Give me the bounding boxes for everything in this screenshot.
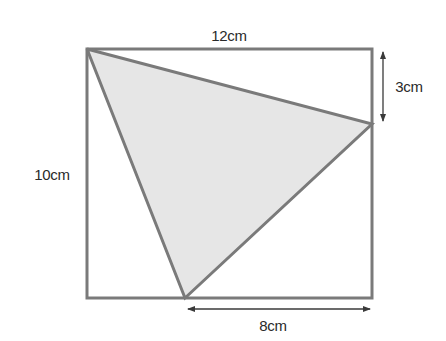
label-bottom-segment: 8cm [259,317,286,334]
label-left-height: 10cm [34,166,69,183]
label-right-segment: 3cm [395,78,422,95]
label-top-width: 12cm [211,27,246,44]
